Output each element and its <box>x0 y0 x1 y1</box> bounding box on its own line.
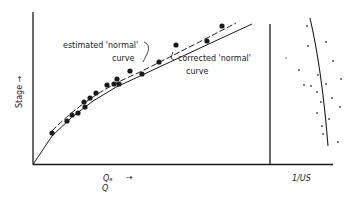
y-axis-label: Stage → <box>15 76 24 108</box>
estimated-leader <box>143 42 149 62</box>
right-axis-label: 1/US <box>292 174 311 183</box>
estimated-curve-label-line2: curve <box>112 54 134 63</box>
estimated-curve-label-line1: estimated 'normal' <box>63 41 138 50</box>
corrected-bracket <box>171 52 174 60</box>
x-axis-label-numerator: Qₑ <box>103 174 113 183</box>
x-axis-arrow: → <box>126 173 133 182</box>
corrected-curve-label-line1: corrected 'normal' <box>178 54 251 63</box>
x-axis-label-denominator: Q <box>102 184 108 193</box>
right-panel-curve <box>310 18 328 146</box>
right-panel-points <box>285 25 342 143</box>
corrected-curve-label-line2: curve <box>186 67 208 76</box>
